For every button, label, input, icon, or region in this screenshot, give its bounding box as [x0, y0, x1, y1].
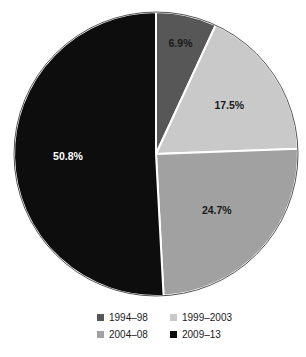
legend-grid: 1994–981999–20032004–082009–13 [97, 310, 232, 342]
chart-legend: 1994–981999–20032004–082009–13 [0, 306, 306, 357]
legend-item-label: 1994–98 [109, 313, 148, 323]
legend-swatch-icon [97, 331, 104, 338]
legend-item-label: 1999–2003 [182, 313, 232, 323]
pie-svg: 6.9%17.5%24.7%50.8% [0, 0, 306, 306]
pie-slice-value-label-3: 24.7% [202, 204, 232, 216]
legend-swatch-icon [97, 314, 104, 321]
pie-slice-3 [156, 149, 298, 296]
legend-swatch-icon [170, 331, 177, 338]
pie-slice-value-label-1: 6.9% [169, 37, 194, 49]
pie-plot-area: 6.9%17.5%24.7%50.8% [0, 0, 306, 306]
pie-chart-figure: 6.9%17.5%24.7%50.8% 1994–981999–20032004… [0, 0, 306, 357]
pie-slice-value-label-4: 50.8% [53, 150, 83, 162]
legend-item-label: 2004–08 [109, 330, 148, 340]
legend-item-label: 2009–13 [182, 330, 221, 340]
legend-item[interactable]: 2009–13 [170, 327, 232, 342]
pie-slice-4 [14, 12, 164, 296]
legend-item[interactable]: 2004–08 [97, 327, 155, 342]
pie-slice-value-label-2: 17.5% [214, 99, 244, 111]
legend-item[interactable]: 1999–2003 [170, 310, 232, 325]
legend-item[interactable]: 1994–98 [97, 310, 155, 325]
legend-swatch-icon [170, 314, 177, 321]
